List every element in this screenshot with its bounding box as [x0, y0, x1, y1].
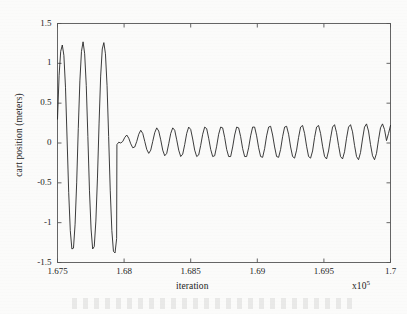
- y-tick-label: 0.5: [22, 97, 52, 107]
- x-tick-label: 1.7: [371, 266, 407, 276]
- x-tick-label: 1.685: [171, 266, 211, 276]
- x-axis-label: iteration: [176, 281, 209, 291]
- x-tick-label: 1.675: [38, 266, 78, 276]
- x-tick-label: 1.69: [237, 266, 277, 276]
- exponent-base: x10: [352, 281, 367, 291]
- y-tick-label: 1.5: [22, 18, 52, 28]
- figure-chart: 1.510.50-0.5-1-1.5 1.6751.681.6851.691.6…: [0, 0, 407, 314]
- y-axis-label: cart position (meters): [14, 70, 24, 200]
- x-tick-label: 1.68: [104, 266, 144, 276]
- x-axis-exponent-label: x105: [352, 279, 370, 291]
- y-tick-label: -0.5: [22, 177, 52, 187]
- x-tick-label: 1.695: [304, 266, 344, 276]
- y-tick-label: 0: [22, 137, 52, 147]
- scan-bleed-artifact: [72, 298, 352, 309]
- exponent-power: 5: [367, 279, 371, 287]
- y-tick-label: 1: [22, 57, 52, 67]
- y-tick-label: -1: [22, 217, 52, 227]
